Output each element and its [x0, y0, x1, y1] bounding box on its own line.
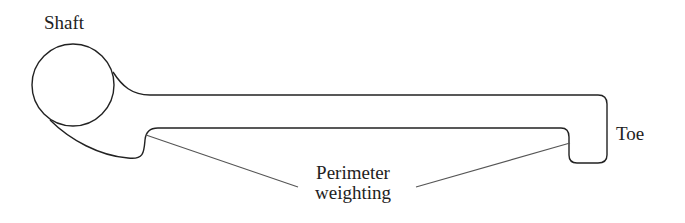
toe-label: Toe — [616, 124, 644, 144]
leader-line-right — [416, 143, 570, 187]
shaft-label: Shaft — [44, 13, 84, 33]
shaft-circle — [32, 44, 114, 126]
perimeter-weighting-label: Perimeter weighting — [290, 163, 416, 203]
leader-line-left — [146, 135, 298, 187]
perimeter-label-line1: Perimeter — [290, 163, 416, 183]
club-head-outline — [50, 72, 607, 163]
perimeter-label-line2: weighting — [290, 183, 416, 203]
